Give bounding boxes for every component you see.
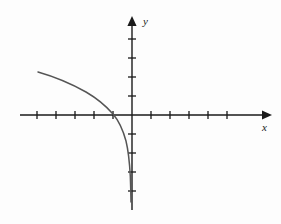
x-axis-arrowhead xyxy=(262,110,272,119)
coordinate-plane xyxy=(0,0,281,224)
y-axis-label: y xyxy=(143,16,148,27)
y-axis-arrowhead xyxy=(127,16,136,26)
graph-figure: y x xyxy=(0,0,281,224)
function-curve xyxy=(38,72,131,202)
x-axis-label: x xyxy=(262,122,267,133)
